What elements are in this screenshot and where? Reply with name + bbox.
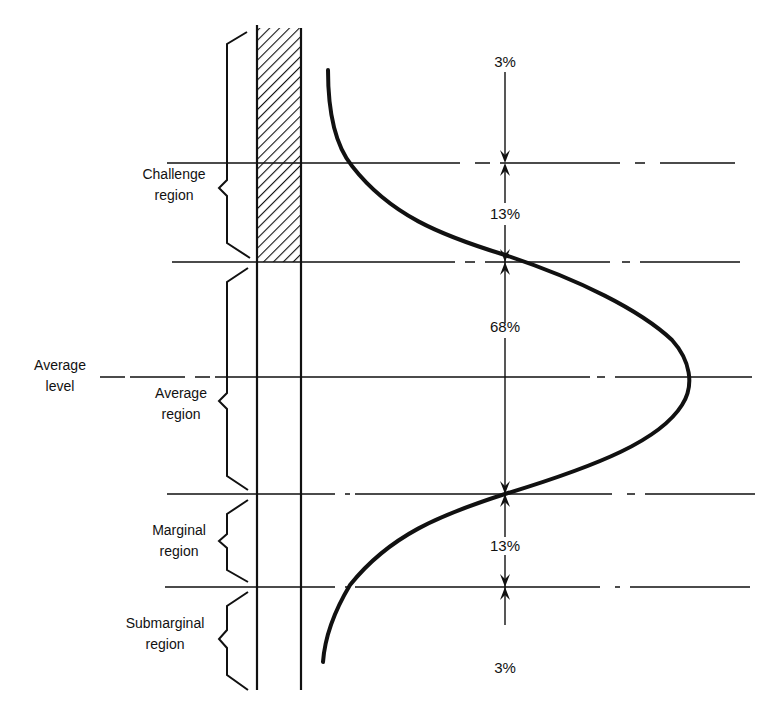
label-challenge-line2: region xyxy=(155,187,194,203)
challenge-brace xyxy=(219,32,250,258)
label-submarginal-line1: Submarginal xyxy=(126,615,205,631)
label-submarginal-line2: region xyxy=(146,636,185,652)
pct-bottom-tail: 3% xyxy=(494,659,516,676)
pct-upper-band: 13% xyxy=(490,205,520,222)
label-marginal-line1: Marginal xyxy=(152,522,206,538)
pct-middle-band: 68% xyxy=(490,318,520,335)
hatched-challenge-bar xyxy=(257,28,301,262)
region-braces xyxy=(219,32,250,690)
label-average-level-line2: level xyxy=(46,378,75,394)
label-average-line1: Average xyxy=(155,385,207,401)
label-challenge-line1: Challenge xyxy=(142,166,205,182)
pct-lower-band: 13% xyxy=(490,537,520,554)
label-marginal-line2: region xyxy=(160,543,199,559)
average-brace xyxy=(219,268,248,490)
label-average-line2: region xyxy=(162,406,201,422)
distribution-diagram: 3% 13% 68% 13% 3% Challenge region Avera… xyxy=(0,0,772,719)
submarginal-brace xyxy=(219,592,248,690)
marginal-brace xyxy=(219,500,248,582)
label-average-level-line1: Average xyxy=(34,357,86,373)
pct-top-tail: 3% xyxy=(494,53,516,70)
